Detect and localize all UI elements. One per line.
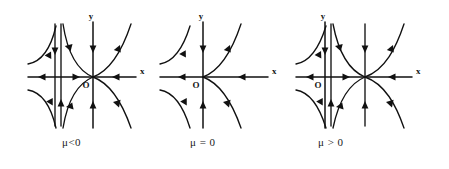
flow-arrow-saddle-v-top-panel-0	[52, 48, 59, 56]
trajectory-lr-panel-1	[203, 77, 241, 128]
trajectory-ul-panel-1	[160, 26, 190, 64]
flow-arrow-x-mid-panel-2	[343, 74, 351, 81]
trajectory-ul-panel-2	[296, 26, 326, 64]
x-axis-label-panel-2: x	[416, 66, 421, 76]
flow-arrow-lr-panel-2	[386, 100, 394, 108]
flow-arrow-saddle-v-bottom-panel-0	[58, 99, 65, 107]
panel-mu-negative: y x O	[28, 11, 145, 128]
flow-arrow-um-panel-2	[335, 44, 343, 51]
flow-arrow-x-right-panel-0	[112, 74, 120, 81]
flow-arrow-lr-panel-1	[223, 100, 231, 108]
flow-arrow-y-bottom-panel-2	[328, 99, 335, 107]
trajectory-ur-panel-2	[365, 24, 404, 77]
flow-arrow-um-panel-0	[65, 44, 73, 51]
flow-arrow-x-mid-panel-0	[73, 74, 81, 81]
x-axis-label-panel-0: x	[140, 66, 145, 76]
trajectory-ul-panel-0	[28, 26, 56, 64]
flow-arrow-y-top-panel-0	[90, 46, 97, 54]
y-axis-label-panel-0: y	[89, 11, 94, 21]
flow-arrow-x-left-panel-1	[178, 74, 186, 81]
flow-arrow-y-top-panel-1	[200, 46, 207, 54]
origin-label-panel-1: O	[192, 80, 199, 90]
trajectory-lr-panel-0	[93, 77, 131, 128]
caption-mu-negative: μ<0	[62, 136, 81, 148]
trajectory-um-panel-2	[333, 24, 365, 77]
flow-arrow-lm-panel-2	[336, 103, 344, 110]
flow-arrow-ur-panel-1	[224, 45, 231, 52]
trajectory-um-panel-0	[63, 24, 93, 77]
flow-arrow-x-right-panel-1	[238, 74, 246, 81]
flow-arrow-ul-panel-1	[179, 48, 189, 57]
flow-arrow-ul-panel-2	[315, 49, 325, 58]
trajectory-ur-panel-1	[203, 24, 241, 77]
trajectory-ll-panel-1	[160, 90, 190, 128]
flow-arrow-node-v-bottom-panel-2	[362, 101, 369, 109]
flow-arrow-node-v-top-panel-2	[362, 46, 369, 54]
trajectory-ll-panel-0	[28, 90, 56, 128]
flow-arrow-y-bottom-panel-0	[90, 101, 97, 109]
phase-portrait-figure: y x O	[0, 0, 449, 169]
flow-arrow-lr-panel-0	[113, 100, 121, 108]
panel-mu-zero: y x O	[160, 11, 277, 128]
x-axis-label-panel-1: x	[272, 66, 277, 76]
y-axis-label-panel-1: y	[199, 11, 204, 21]
flow-arrow-y-bottom-panel-1	[200, 101, 207, 109]
flow-arrow-x-left-panel-0	[38, 74, 46, 81]
y-axis-label-panel-2: y	[321, 11, 326, 21]
caption-mu-positive: μ > 0	[318, 136, 344, 148]
origin-label-panel-2: O	[314, 80, 321, 90]
flow-arrow-x-left-panel-2	[306, 74, 314, 81]
flow-arrow-ll-panel-1	[180, 98, 190, 107]
trajectory-lm-panel-2	[333, 77, 365, 128]
panel-mu-positive: y x O	[296, 11, 421, 128]
flow-arrow-ur-panel-0	[114, 45, 121, 52]
trajectory-lr-panel-2	[365, 77, 404, 128]
flow-arrow-y-top-panel-2	[322, 48, 329, 56]
flow-arrow-x-right-panel-2	[388, 74, 396, 81]
trajectory-ur-panel-0	[93, 24, 131, 77]
trajectory-ll-panel-2	[296, 90, 326, 128]
caption-mu-zero: μ = 0	[190, 136, 216, 148]
flow-arrow-ur-panel-2	[387, 45, 394, 52]
